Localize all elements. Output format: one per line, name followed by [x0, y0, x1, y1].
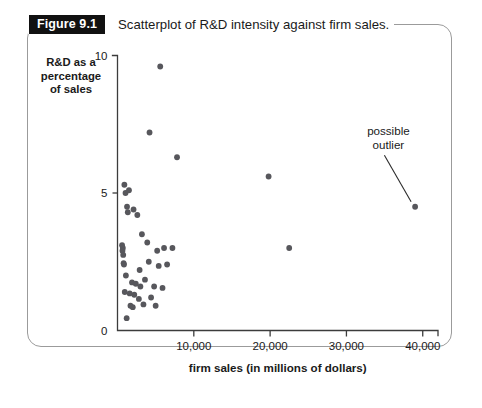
caption-connector-rule	[399, 24, 425, 25]
y-axis-title-line-1: R&D as a	[33, 56, 109, 70]
figure-caption-text: Scatterplot of R&D intensity against fir…	[118, 17, 389, 32]
figure-root: Figure 9.1 Scatterplot of R&D intensity …	[0, 0, 482, 408]
x-axis-title-text: firm sales (in millions of dollars)	[189, 361, 367, 374]
x-axis-title: firm sales (in millions of dollars)	[189, 361, 367, 374]
y-axis-title: R&D as a percentage of sales	[33, 56, 109, 97]
figure-caption-row: Figure 9.1 Scatterplot of R&D intensity …	[29, 14, 425, 35]
figure-number-badge: Figure 9.1	[29, 15, 105, 34]
y-axis-title-line-3: of sales	[33, 83, 109, 97]
y-axis-title-line-2: percentage	[33, 70, 109, 84]
